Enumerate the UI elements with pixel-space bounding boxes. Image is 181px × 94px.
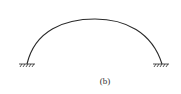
arch-curve bbox=[27, 19, 162, 64]
figure-caption: (b) bbox=[92, 76, 118, 86]
left-fixed-support-icon bbox=[19, 64, 35, 67]
right-fixed-support-icon bbox=[153, 64, 169, 67]
arch-diagram bbox=[0, 0, 181, 94]
